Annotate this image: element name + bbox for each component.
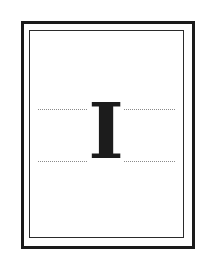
serif-letter-glyph: I xyxy=(86,94,126,170)
